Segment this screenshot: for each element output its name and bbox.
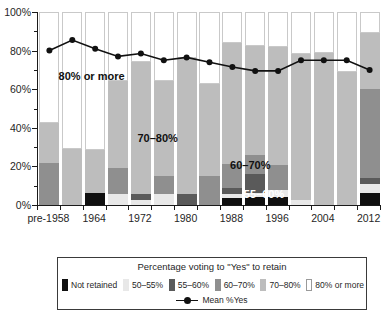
legend-item[interactable]: 50–55% xyxy=(123,279,163,291)
y-tick-label: 80% xyxy=(10,45,31,57)
x-tick-mark xyxy=(266,206,267,210)
x-tick-mark xyxy=(151,206,152,210)
stacked-bar-chart: 0%20%40%60%80%100% 80% or more70–80%60–7… xyxy=(0,0,384,322)
legend-item[interactable]: 60–70% xyxy=(215,279,255,291)
x-tick-label: 1972 xyxy=(128,212,151,224)
y-axis: 0%20%40%60%80%100% xyxy=(0,0,37,225)
x-tick-label: 1996 xyxy=(265,212,288,224)
plot-annotation: 70–80% xyxy=(137,132,177,144)
x-tick-mark xyxy=(311,206,312,210)
x-tick-mark xyxy=(289,206,290,210)
x-tick-label: 1964 xyxy=(82,212,105,224)
x-tick-mark xyxy=(174,206,175,210)
x-tick-label: 1980 xyxy=(174,212,197,224)
mean-line-icon xyxy=(176,296,198,305)
plot-annotation: 80% or more xyxy=(59,70,125,82)
y-tick-label: 100% xyxy=(4,6,31,18)
plot-annotation: 55–60% xyxy=(244,188,284,200)
legend-swatch-icon xyxy=(260,279,266,291)
x-tick-mark xyxy=(60,206,61,210)
x-tick-mark xyxy=(83,206,84,210)
x-tick-label: pre-1958 xyxy=(27,212,69,224)
legend-item[interactable]: 70–80% xyxy=(260,279,300,291)
legend-item-label: Not retained xyxy=(71,280,117,290)
legend-swatch-icon xyxy=(169,279,175,291)
legend-item-label: 55–60% xyxy=(178,280,209,290)
legend-swatch-icon xyxy=(215,279,221,291)
legend-title: Percentage voting to "Yes" to retain xyxy=(58,261,366,272)
x-tick-label: 1988 xyxy=(220,212,243,224)
legend-item[interactable]: Not retained xyxy=(62,279,117,291)
x-tick-mark xyxy=(128,206,129,210)
legend-item-label: 70–80% xyxy=(269,280,300,290)
legend-swatch-icon xyxy=(123,279,129,291)
legend-swatch-icon xyxy=(306,279,312,291)
plot-annotations-layer: 80% or more70–80%60–70%55–60% xyxy=(38,12,381,205)
x-tick-mark xyxy=(357,206,358,210)
legend: Percentage voting to "Yes" to retain Not… xyxy=(57,257,367,310)
y-tick-label: 20% xyxy=(10,160,31,172)
x-tick-mark xyxy=(197,206,198,210)
x-tick-label: 2012 xyxy=(357,212,380,224)
x-tick-label: 2004 xyxy=(311,212,334,224)
x-tick-mark xyxy=(220,206,221,210)
y-tick-label: 60% xyxy=(10,83,31,95)
x-tick-mark xyxy=(106,206,107,210)
legend-items: Not retained50–55%55–60%60–70%70–80%80% … xyxy=(62,277,364,292)
legend-swatch-icon xyxy=(62,279,68,291)
x-tick-mark xyxy=(380,206,381,210)
legend-item-label: 50–55% xyxy=(132,280,163,290)
plot-area: 80% or more70–80%60–70%55–60% xyxy=(37,12,381,206)
legend-item[interactable]: 55–60% xyxy=(169,279,209,291)
legend-item-label: 60–70% xyxy=(224,280,255,290)
plot-annotation: 60–70% xyxy=(230,159,270,171)
legend-line-entry: Mean %Yes xyxy=(58,295,366,305)
x-tick-mark xyxy=(334,206,335,210)
x-tick-mark xyxy=(243,206,244,210)
y-tick-label: 0% xyxy=(16,199,31,211)
legend-item-label: 80% or more xyxy=(315,280,364,290)
legend-line-label: Mean %Yes xyxy=(202,295,247,305)
x-tick-mark xyxy=(37,206,38,210)
y-tick-label: 40% xyxy=(10,122,31,134)
legend-item[interactable]: 80% or more xyxy=(306,279,364,291)
